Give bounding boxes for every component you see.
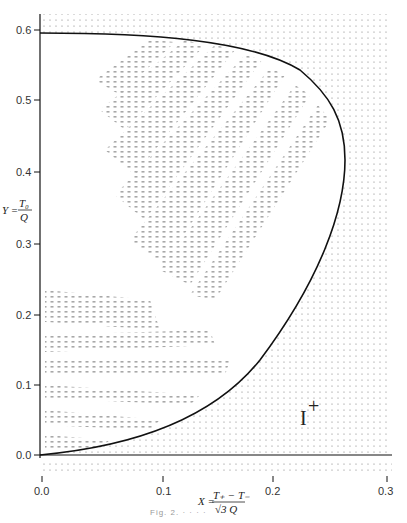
svg-text:0.0: 0.0	[34, 485, 49, 497]
svg-text:0.4: 0.4	[16, 166, 31, 178]
svg-text:0.5: 0.5	[16, 94, 31, 106]
svg-text:I: I	[300, 407, 307, 429]
svg-text:0.3: 0.3	[16, 238, 31, 250]
svg-text:Y =: Y =	[2, 204, 18, 216]
svg-text:T₊ − T₋: T₊ − T₋	[213, 489, 250, 501]
y-tick-labels: 0.6 0.5 0.4 0.3 0.2 0.1 0.0	[16, 24, 31, 461]
x-axis-value-row	[40, 461, 392, 473]
svg-text:0.3: 0.3	[378, 485, 393, 497]
svg-text:Q: Q	[20, 211, 28, 223]
x-ticks	[42, 476, 387, 482]
svg-text:0.1: 0.1	[16, 379, 31, 391]
svg-text:T₀: T₀	[19, 197, 29, 209]
svg-text:+: +	[308, 395, 319, 417]
y-ticks	[34, 30, 40, 455]
svg-text:0.0: 0.0	[16, 449, 31, 461]
svg-text:0.2: 0.2	[16, 309, 31, 321]
phase-diagram-chart: 0.6 0.5 0.4 0.3 0.2 0.1 0.0 0.0 0.1 0.2 …	[0, 0, 407, 523]
svg-text:√3 Q: √3 Q	[215, 503, 237, 515]
y-axis-label: Y = T₀ Q	[2, 197, 32, 223]
svg-text:0.1: 0.1	[156, 485, 171, 497]
figure-caption: Fig. 2. · · · ·	[150, 508, 207, 517]
svg-text:0.6: 0.6	[16, 24, 31, 36]
svg-text:0.2: 0.2	[265, 485, 280, 497]
